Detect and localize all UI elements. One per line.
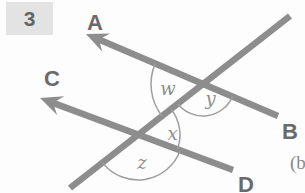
line-a-b: [99, 40, 278, 117]
ray-label-c: C: [44, 66, 60, 91]
subfigure-label: (b: [290, 151, 305, 174]
angle-label-x: x: [167, 123, 177, 144]
ray-label-d: D: [238, 172, 254, 193]
angle-label-z: z: [136, 152, 147, 173]
ray-label-a: A: [87, 10, 103, 35]
ray-label-b: B: [282, 119, 298, 144]
parallel-lines-transversal-diagram: A B C D w y x z: [0, 0, 305, 193]
textbook-figure-page: 3 A B C D w y x z (b: [0, 0, 305, 193]
angle-label-w: w: [160, 78, 176, 99]
angle-label-y: y: [204, 88, 216, 109]
